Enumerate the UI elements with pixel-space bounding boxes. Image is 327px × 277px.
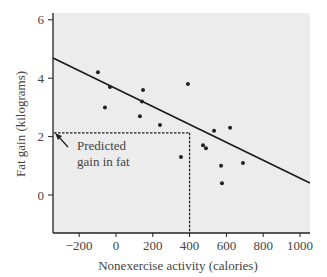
x-tick-label: 800 <box>253 238 273 253</box>
scatter-chart: −20002004006008001000 0246 Nonexercise a… <box>0 0 327 277</box>
x-tick-label: −200 <box>66 238 93 253</box>
data-point <box>212 129 216 133</box>
data-point <box>103 105 107 109</box>
data-point <box>140 100 144 104</box>
data-point <box>138 114 142 118</box>
y-axis-title: Fat gain (kilograms) <box>13 71 28 177</box>
x-tick-label: 0 <box>113 238 120 253</box>
y-tick-label: 6 <box>38 12 45 27</box>
data-point <box>220 181 224 185</box>
x-tick-label: 1000 <box>287 238 313 253</box>
y-tick-label: 4 <box>38 71 45 86</box>
x-axis-title: Nonexercise activity (calories) <box>98 258 258 273</box>
x-tick-label: 200 <box>143 238 163 253</box>
data-point <box>204 146 208 150</box>
x-axis-ticks: −20002004006008001000 <box>66 233 313 253</box>
data-point <box>96 70 100 74</box>
x-tick-label: 400 <box>180 238 200 253</box>
y-axis-ticks: 0246 <box>38 12 54 202</box>
y-tick-label: 2 <box>38 129 45 144</box>
x-tick-label: 600 <box>217 238 237 253</box>
annotation-text: gain in fat <box>77 154 130 169</box>
data-point <box>108 85 112 89</box>
annotation-text: Predicted <box>77 138 127 153</box>
data-point <box>158 123 162 127</box>
y-tick-label: 0 <box>38 188 45 203</box>
data-point <box>201 143 205 147</box>
plot-background <box>53 13 310 233</box>
data-point <box>141 88 145 92</box>
data-point <box>186 82 190 86</box>
data-point <box>179 155 183 159</box>
data-point <box>228 126 232 130</box>
data-point <box>241 161 245 165</box>
data-point <box>219 164 223 168</box>
